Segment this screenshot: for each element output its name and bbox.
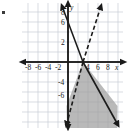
x-tick-label-4: 4 [86, 64, 90, 72]
y-tick-label-8: 8 [61, 9, 65, 17]
y-tick-label-2: 2 [61, 39, 65, 47]
x-tick-label--4: -4 [45, 64, 51, 72]
x-tick-label-6: 6 [96, 64, 100, 72]
y-tick-label--4: -4 [58, 79, 64, 87]
x-tick-label--8: -8 [25, 64, 31, 72]
graph-figure: -8 -6 -4 -2 4 6 8 8 6 2 -4 -6 y x [0, 0, 130, 131]
x-tick-label--6: -6 [35, 64, 41, 72]
y-tick-label-6: 6 [61, 19, 65, 27]
x-tick-label--2: -2 [55, 64, 61, 72]
x-tick-label-8: 8 [106, 64, 110, 72]
y-axis-label: y [70, 4, 73, 12]
coordinate-plane [0, 0, 130, 131]
y-tick-label--6: -6 [58, 92, 64, 100]
x-axis-label: x [115, 64, 118, 72]
